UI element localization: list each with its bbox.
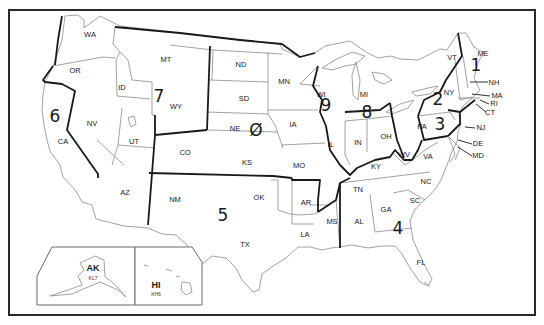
hawaii-inset [135,247,202,305]
state-label-sd: SD [239,94,250,103]
district-number-1: 1 [471,55,482,75]
state-label-wy: WY [170,102,182,111]
inset-panel: AK KL7 HI KH6 [37,247,202,305]
hawaii-label: HI [152,280,161,290]
state-label-md: MD [472,151,484,160]
district-number-4: 4 [393,218,404,238]
state-label-va: VA [423,152,432,161]
state-label-vt: VT [447,53,457,62]
state-label-ms: MS [326,217,337,226]
state-label-ky: KY [371,162,381,171]
alaska-inset [37,247,135,305]
state-label-mt: MT [161,55,172,64]
state-label-ca: CA [58,137,68,146]
state-label-tn: TN [353,185,363,194]
state-label-wa: WA [84,30,96,39]
state-label-or: OR [69,66,81,75]
state-label-mi: MI [360,90,368,99]
state-label-al: AL [354,217,363,226]
state-label-ut: UT [129,137,139,146]
state-label-ga: GA [381,205,392,214]
state-label-pa: PA [417,122,426,131]
state-label-oh: OH [380,132,391,141]
district-number-2: 2 [433,89,444,109]
state-label-de: DE [473,139,483,148]
state-label-il: IL [328,140,334,149]
state-label-mn: MN [278,77,290,86]
state-label-nd: ND [236,60,247,69]
state-label-mo: MO [293,161,305,170]
district-number-7: 7 [154,86,165,106]
state-label-ct: CT [485,108,495,117]
state-label-ne: NE [230,124,240,133]
state-label-nm: NM [169,195,181,204]
district-number-5: 5 [218,205,229,225]
state-label-ok: OK [254,193,265,202]
state-label-co: CO [179,148,190,157]
state-label-wv: WV [398,150,410,159]
state-label-nv: NV [87,119,97,128]
state-label-la: LA [300,230,309,239]
district-number-3: 3 [435,114,446,134]
alaska-label: AK [87,263,100,273]
state-label-ri: RI [490,99,498,108]
district-number-9: 9 [321,95,332,115]
state-label-sc: SC [410,196,421,205]
state-label-in: IN [354,138,362,147]
state-label-tx: TX [240,240,250,249]
state-label-nh: NH [489,78,500,87]
state-label-id: ID [118,83,126,92]
state-label-ny: NY [444,88,454,97]
state-label-nj: NJ [476,123,485,132]
district-number-6: 6 [50,106,61,126]
state-label-nc: NC [421,177,432,186]
state-label-ia: IA [289,120,296,129]
district-number-8: 8 [362,102,373,122]
us-call-district-map: AK KL7 HI KH6 WAORCANVIDMTWYUTCOAZNMNDSD… [0,0,544,325]
alaska-call-prefix: KL7 [89,275,98,281]
state-label-ks: KS [242,158,252,167]
state-label-fl: FL [417,258,426,267]
state-label-ar: AR [301,198,312,207]
district-number-0: Ø [249,120,262,140]
state-label-az: AZ [120,188,130,197]
hawaii-call-prefix: KH6 [151,291,161,297]
